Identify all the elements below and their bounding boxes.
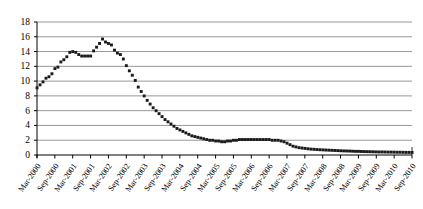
chart-container: 024681012141618 Mar-2000Sep-2000Mar-2001… — [0, 0, 423, 209]
x-axis-labels: Mar-2000Sep-2000Mar-2001Sep-2001Mar-2002… — [0, 0, 423, 209]
